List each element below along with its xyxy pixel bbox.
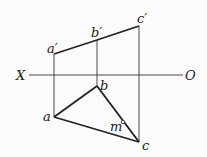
label-b-prime: b′ (91, 25, 102, 40)
label-c: c (142, 138, 150, 153)
front-edge-ab (54, 40, 97, 54)
label-b: b (100, 78, 108, 93)
axis-label-o: O (185, 68, 196, 83)
front-edge-bc (97, 26, 139, 40)
label-a: a (43, 109, 51, 124)
label-c-prime: c′ (137, 11, 147, 26)
axis-label-x: X (15, 68, 26, 83)
projection-diagram: X O a′ b′ c′ a b c m (0, 0, 207, 157)
label-a-prime: a′ (47, 41, 58, 56)
label-m: m (110, 119, 122, 134)
top-edge-ca (54, 117, 139, 142)
top-edge-ab (54, 86, 97, 117)
